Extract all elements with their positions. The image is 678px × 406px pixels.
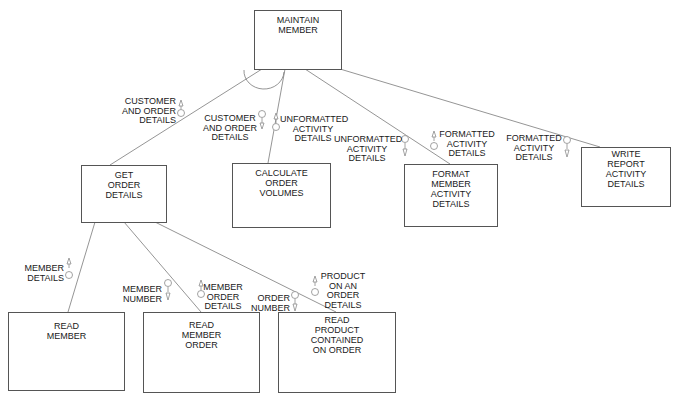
module-label-line: MEMBER	[9, 331, 124, 341]
module-label-line: ORDER	[82, 180, 166, 190]
couple-label-c8: MEMBER NUMBER	[118, 285, 162, 304]
module-label-line: READ	[9, 321, 124, 331]
couple-label-c10: ORDER NUMBER	[250, 294, 290, 313]
module-maintain-member[interactable]: MAINTAIN MEMBER	[254, 10, 342, 70]
module-label-line: MEMBER	[255, 25, 341, 35]
couple-label-c6: FORMATTED ACTIVITY DETAILS	[506, 134, 562, 163]
module-label-line: DETAILS	[82, 190, 166, 200]
couple-c5-icon	[431, 131, 438, 150]
module-label-line: ORDER	[144, 340, 259, 350]
module-label-line: MAINTAIN	[255, 15, 341, 25]
couple-label-c5: FORMATTED ACTIVITY DETAILS	[438, 130, 496, 159]
module-read-product-contained-on-order[interactable]: READ PRODUCT CONTAINED ON ORDER	[278, 312, 396, 393]
couple-c6-icon	[564, 137, 571, 158]
couple-c10-icon	[292, 292, 299, 312]
module-label-line: FORMAT	[405, 169, 497, 179]
couple-c3-icon	[273, 113, 280, 131]
module-label-line: ACTIVITY	[405, 189, 497, 199]
module-label-line: DETAILS	[582, 179, 670, 189]
module-label-line: MEMBER	[144, 330, 259, 340]
module-format-member-activity-details[interactable]: FORMAT MEMBER ACTIVITY DETAILS	[404, 164, 498, 227]
module-label-line: VOLUMES	[233, 188, 330, 198]
module-label-line: READ	[144, 320, 259, 330]
module-label-line: ORDER	[233, 178, 330, 188]
couple-c2-icon	[259, 111, 266, 130]
module-label-line: ON ORDER	[279, 345, 395, 355]
module-write-report-activity-details[interactable]: WRITE REPORT ACTIVITY DETAILS	[581, 147, 671, 207]
couple-c1-icon	[178, 100, 185, 117]
module-label-line: READ	[279, 315, 395, 325]
link-get-read-product	[155, 222, 336, 312]
module-label-line: PRODUCT	[279, 325, 395, 335]
module-read-member[interactable]: READ MEMBER	[8, 312, 125, 391]
couple-c11-icon	[312, 276, 319, 296]
module-label-line: ACTIVITY	[582, 169, 670, 179]
module-read-member-order[interactable]: READ MEMBER ORDER	[143, 312, 260, 393]
module-label-line: CONTAINED	[279, 335, 395, 345]
module-calculate-order-volumes[interactable]: CALCULATE ORDER VOLUMES	[232, 163, 331, 228]
module-label-line: WRITE	[582, 149, 670, 159]
couple-label-c11: PRODUCT ON AN ORDER DETAILS	[320, 272, 366, 310]
couple-c8-icon	[165, 280, 172, 301]
iteration-arc-icon	[244, 70, 284, 89]
module-label-line: CALCULATE	[233, 168, 330, 178]
couple-label-c2: CUSTOMER AND ORDER DETAILS	[202, 114, 258, 143]
couple-c7-icon	[66, 258, 73, 279]
module-label-line: MEMBER	[405, 179, 497, 189]
module-get-order-details[interactable]: GET ORDER DETAILS	[81, 165, 167, 223]
module-label-line: REPORT	[582, 159, 670, 169]
couple-label-c9: MEMBER ORDER DETAILS	[201, 283, 245, 312]
module-label-line: GET	[82, 170, 166, 180]
link-get-read-member	[68, 222, 95, 312]
module-label-line: DETAILS	[405, 199, 497, 209]
couple-c4-icon	[402, 136, 409, 157]
couple-label-c7: MEMBER DETAILS	[18, 264, 64, 283]
couple-label-c4: UNFORMATTED ACTIVITY DETAILS	[334, 135, 400, 164]
couple-label-c1: CUSTOMER AND ORDER DETAILS	[120, 97, 176, 126]
